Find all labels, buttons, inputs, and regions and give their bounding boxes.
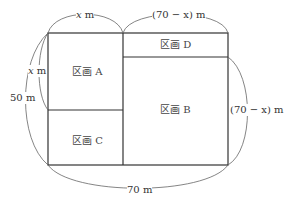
land-diagram <box>0 0 284 203</box>
region-c-label: 区画 C <box>72 135 103 147</box>
label-left-inner: x m <box>28 65 46 77</box>
region-d-label: 区画 D <box>160 39 191 51</box>
label-bottom: 70 m <box>127 184 152 196</box>
label-top-left: x m <box>76 9 94 21</box>
label-left-inner-unit: m <box>34 65 47 76</box>
region-b-label: 区画 B <box>160 104 191 116</box>
label-left-outer: 50 m <box>10 92 35 104</box>
label-top-left-unit: m <box>82 9 95 20</box>
label-top-right: (70 − x) m <box>152 9 206 21</box>
region-a-label: 区画 A <box>72 66 102 78</box>
label-right: (70 − x) m <box>230 104 284 116</box>
